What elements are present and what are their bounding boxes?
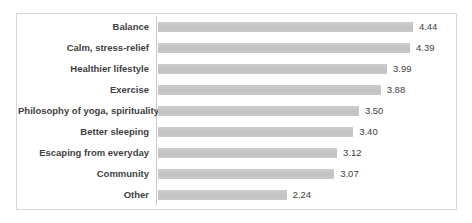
value-label: 3.99 [393,63,412,74]
value-label: 3.50 [365,105,384,116]
bar [158,148,337,158]
value-label: 2.24 [293,189,312,200]
bar-row: Escaping from everyday3.12 [18,142,455,163]
plot-cell: 2.24 [156,184,455,205]
chart-frame: Balance4.44Calm, stress-relief4.39Health… [16,13,457,210]
plot-cell: 4.44 [156,16,455,37]
plot-cell: 3.50 [156,100,455,121]
category-label: Community [18,168,156,179]
category-label: Calm, stress-relief [18,42,156,53]
bar [158,190,287,200]
plot-cell: 3.07 [156,163,455,184]
value-label: 3.12 [343,147,362,158]
chart-canvas: Balance4.44Calm, stress-relief4.39Health… [0,0,472,223]
bar-row: Community3.07 [18,163,455,184]
category-label: Better sleeping [18,126,156,137]
value-label: 4.44 [419,21,438,32]
bar [158,85,381,95]
bar-row: Calm, stress-relief4.39 [18,37,455,58]
bar [158,22,413,32]
plot-cell: 3.88 [156,79,455,100]
bar-row: Exercise3.88 [18,79,455,100]
bar-row: Better sleeping3.40 [18,121,455,142]
plot-cell: 3.40 [156,121,455,142]
bar-row: Healthier lifestyle3.99 [18,58,455,79]
bar-row: Balance4.44 [18,16,455,37]
bar [158,64,387,74]
value-label: 3.88 [387,84,406,95]
category-label: Healthier lifestyle [18,63,156,74]
category-label: Other [18,189,156,200]
plot-cell: 4.39 [156,37,455,58]
value-label: 4.39 [416,42,435,53]
value-label: 3.40 [359,126,378,137]
bar [158,43,410,53]
plot-cell: 3.99 [156,58,455,79]
category-label: Exercise [18,84,156,95]
bar [158,127,353,137]
bar [158,169,334,179]
plot-cell: 3.12 [156,142,455,163]
bar [158,106,359,116]
bar-rows: Balance4.44Calm, stress-relief4.39Health… [18,16,455,205]
category-label: Philosophy of yoga, spirituality [18,105,156,116]
category-label: Escaping from everyday [18,147,156,158]
bar-row: Other2.24 [18,184,455,205]
value-label: 3.07 [340,168,359,179]
category-label: Balance [18,21,156,32]
bar-row: Philosophy of yoga, spirituality3.50 [18,100,455,121]
